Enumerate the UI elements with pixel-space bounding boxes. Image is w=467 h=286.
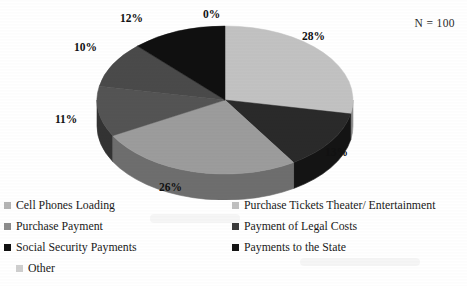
legend-item-payment-of-legal-costs[interactable]: Payment of Legal Costs <box>232 221 357 233</box>
legend-item-other[interactable]: Other <box>16 263 55 275</box>
legend-item-purchase-tickets-theater-entertainment[interactable]: Purchase Tickets Theater/ Entertainment <box>232 200 435 212</box>
data-label-10: 10% <box>74 41 97 53</box>
legend-swatch-icon <box>232 244 239 251</box>
legend-item-social-security-payments[interactable]: Social Security Payments <box>4 242 137 254</box>
legend-swatch-icon <box>4 244 11 251</box>
legend-item-label: Payment of Legal Costs <box>244 221 357 233</box>
legend-item-payments-to-the-state[interactable]: Payments to the State <box>232 242 346 254</box>
legend-item-cell-phones-loading[interactable]: Cell Phones Loading <box>4 200 115 212</box>
legend-item-label: Purchase Tickets Theater/ Entertainment <box>244 200 435 212</box>
legend-item-label: Social Security Payments <box>16 242 137 254</box>
data-label-28: 28% <box>302 30 325 42</box>
data-label-0: 0% <box>203 8 220 20</box>
legend-item-label: Payments to the State <box>244 242 346 254</box>
legend-swatch-icon <box>16 265 23 272</box>
legend-item-purchase-payment[interactable]: Purchase Payment <box>4 221 103 233</box>
legend-item-label: Cell Phones Loading <box>16 200 115 212</box>
pie-chart-figure: N = 100 0% 28% 13% 26% 11% 10% 12% Cell … <box>0 0 467 286</box>
data-label-12: 12% <box>120 12 143 24</box>
data-label-11: 11% <box>55 113 77 125</box>
pie-svg <box>0 0 467 200</box>
legend-swatch-icon <box>232 223 239 230</box>
legend-swatch-icon <box>4 223 11 230</box>
legend-item-label: Other <box>28 263 55 275</box>
legend-swatch-icon <box>232 202 239 209</box>
data-label-13: 13% <box>325 146 348 158</box>
data-label-26: 26% <box>159 181 182 193</box>
legend-item-label: Purchase Payment <box>16 221 103 233</box>
pie-graphic <box>0 0 467 200</box>
sample-size-annotation: N = 100 <box>414 17 455 29</box>
pie-top-faces <box>97 26 353 174</box>
legend-swatch-icon <box>4 202 11 209</box>
pie-slice-top[interactable] <box>225 26 353 114</box>
chart-legend: Cell Phones Loading Purchase Tickets The… <box>0 196 467 286</box>
